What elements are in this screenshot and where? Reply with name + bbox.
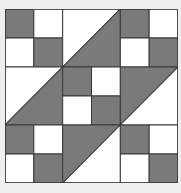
checker-square [149, 154, 178, 183]
checker-square [120, 38, 149, 67]
checker-square [120, 154, 149, 183]
checker-square [34, 38, 63, 67]
quilt-block [5, 9, 178, 183]
checker-square [5, 125, 34, 154]
checker-square [5, 9, 34, 38]
checker-square [5, 154, 34, 183]
checker-square [149, 9, 178, 38]
checker-square [92, 67, 121, 96]
checker-square [34, 154, 63, 183]
checker-square [5, 38, 34, 67]
checker-square [92, 96, 121, 125]
checker-square [34, 125, 63, 154]
checker-square [120, 9, 149, 38]
checker-square [34, 9, 63, 38]
checker-square [63, 96, 92, 125]
checker-square [63, 67, 92, 96]
checker-square [149, 125, 178, 154]
checker-square [120, 125, 149, 154]
checker-square [149, 38, 178, 67]
